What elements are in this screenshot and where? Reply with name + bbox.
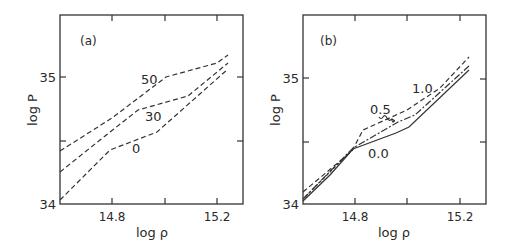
curve-0-5-b (303, 66, 469, 199)
panel-label-b: (b) (320, 34, 337, 48)
curve-label-30: 30 (145, 109, 162, 124)
y-tick-label-34-b: 34 (282, 197, 299, 212)
x-tick-label-14-8-a: 14.8 (99, 210, 126, 224)
curve-1-0-b (303, 57, 469, 192)
x-axis-label-b: log ρ (378, 225, 410, 240)
curve-0-a-dashed (60, 69, 228, 200)
x-tick-label-15-2-b: 15.2 (447, 210, 474, 224)
curve-label-1-0: 1.0 (412, 81, 433, 96)
y-tick-label-35-a: 35 (39, 70, 56, 85)
panel-a: (a) 50 30 0 35 34 14.8 15.2 log ρ log P (25, 15, 243, 240)
panel-label-a: (a) (80, 34, 97, 48)
x-tick-label-15-2-a: 15.2 (204, 210, 231, 224)
x-axis-label-a: log ρ (136, 225, 168, 240)
curve-label-0: 0 (132, 141, 140, 156)
figure: (a) 50 30 0 35 34 14.8 15.2 log ρ log P (0, 0, 511, 250)
y-tick-label-35-b: 35 (282, 71, 299, 86)
curve-label-0-0: 0.0 (368, 146, 389, 161)
x-tick-label-14-8-b: 14.8 (342, 210, 369, 224)
y-tick-label-34-a: 34 (39, 197, 56, 212)
panel-b: (b) 1.0 0.5 0.0 35 34 14.8 15.2 log ρ lo… (268, 15, 486, 240)
curve-label-0-5: 0.5 (370, 102, 391, 117)
curve-label-50: 50 (141, 72, 158, 87)
y-axis-label-b: log P (268, 94, 283, 126)
y-axis-label-a: log P (25, 94, 40, 126)
curve-0-0-b (303, 70, 469, 201)
